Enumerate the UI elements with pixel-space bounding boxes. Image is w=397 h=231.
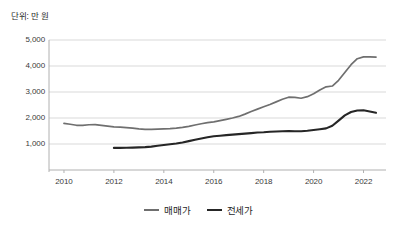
legend-label-maemae: 매매가 (164, 203, 190, 217)
x-tick-label-2010: 2010 (44, 178, 84, 186)
legend-swatch-maemae (144, 209, 159, 211)
series-line-매매가 (64, 57, 376, 130)
plot-area (0, 0, 397, 231)
legend-item-jeonse[interactable]: 전세가 (207, 203, 253, 217)
price-trend-chart: 단위: 만 원 1,0002,0003,0004,0005,000 매매가 전세… (0, 0, 397, 231)
chart-legend: 매매가 전세가 (0, 203, 397, 217)
x-tick-label-2016: 2016 (194, 178, 234, 186)
legend-item-maemae[interactable]: 매매가 (144, 203, 190, 217)
x-tick-label-2012: 2012 (94, 178, 134, 186)
legend-swatch-jeonse (207, 209, 222, 211)
legend-label-jeonse: 전세가 (227, 203, 253, 217)
x-tick-label-2020: 2020 (294, 178, 334, 186)
x-tick-label-2018: 2018 (244, 178, 284, 186)
x-tick-label-2022: 2022 (344, 178, 384, 186)
x-tick-label-2014: 2014 (144, 178, 184, 186)
